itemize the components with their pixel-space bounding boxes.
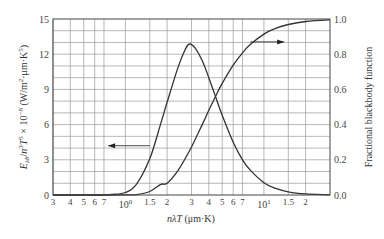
x-tick-label: 3	[51, 197, 56, 207]
y-left-tick-label: 9	[44, 84, 49, 95]
y-right-tick-label: 0.2	[334, 154, 347, 165]
x-tick-label: 1.5	[144, 197, 156, 207]
x-tick-label: 6	[231, 197, 236, 207]
arrows	[108, 39, 284, 148]
y-right-tick-label: 0.6	[334, 84, 347, 95]
grid-lines	[53, 19, 330, 195]
x-tick-label: 7	[102, 197, 107, 207]
x-tick-label: 3	[189, 197, 194, 207]
y-right-tick-label: 0.8	[334, 49, 347, 60]
y-right-axis-label: Fractional blackbody function	[363, 47, 374, 168]
y-left-tick-label: 3	[44, 154, 49, 165]
arrow-right-head-icon	[277, 39, 284, 44]
y-left-axis-label: Eλb/n3T5 × 10−8 (W/m2·μm·K5)	[17, 45, 31, 170]
chart: 345671001.52345671011.52 03691215 0.00.2…	[0, 0, 384, 239]
x-tick-label: 4	[207, 197, 212, 207]
x-tick-label: 4	[68, 197, 73, 207]
y-left-tick-label: 15	[39, 14, 49, 25]
y-left-tick-label: 6	[44, 119, 49, 130]
x-tick-label: 2	[303, 197, 308, 207]
x-axis-label: nλT (μm·K)	[167, 213, 215, 225]
y-right-tick-label: 0.4	[334, 119, 347, 130]
y-right-axis-ticks: 0.00.20.40.60.81.0	[334, 14, 347, 201]
arrow-left-head-icon	[108, 143, 115, 148]
x-tick-label: 101	[257, 198, 271, 210]
x-tick-label: 2	[165, 197, 170, 207]
y-left-axis-ticks: 03691215	[39, 14, 49, 201]
x-axis-ticks: 345671001.52345671011.52	[51, 197, 308, 210]
x-tick-label: 7	[240, 197, 245, 207]
x-tick-label: 1.5	[283, 197, 295, 207]
x-tick-label: 5	[220, 197, 225, 207]
x-tick-label: 100	[119, 198, 133, 210]
y-right-tick-label: 0.0	[334, 190, 347, 201]
y-right-tick-label: 1.0	[334, 14, 347, 25]
y-left-tick-label: 0	[44, 190, 49, 201]
y-left-tick-label: 12	[39, 49, 49, 60]
x-tick-label: 6	[92, 197, 97, 207]
x-tick-label: 5	[81, 197, 86, 207]
